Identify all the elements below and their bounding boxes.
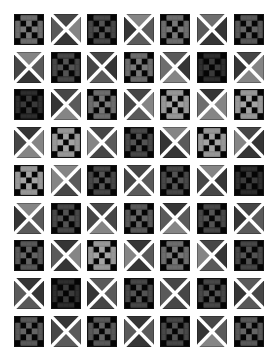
hourglass-x-tile bbox=[87, 278, 117, 309]
checker-block-tile bbox=[14, 240, 44, 271]
checker-block-tile bbox=[160, 89, 190, 120]
checker-block-tile bbox=[234, 240, 264, 271]
hourglass-x-tile bbox=[197, 240, 227, 271]
hourglass-x-tile bbox=[234, 278, 264, 309]
hourglass-x-tile bbox=[14, 52, 44, 83]
checker-block-tile bbox=[124, 52, 154, 83]
checker-block-tile bbox=[14, 14, 44, 45]
hourglass-x-tile bbox=[124, 89, 154, 120]
hourglass-x-tile bbox=[197, 89, 227, 120]
hourglass-x-tile bbox=[51, 316, 81, 347]
checker-block-tile bbox=[87, 89, 117, 120]
hourglass-x-tile bbox=[160, 203, 190, 234]
checker-block-tile bbox=[234, 165, 264, 196]
hourglass-x-tile bbox=[234, 127, 264, 158]
checker-block-tile bbox=[14, 89, 44, 120]
hourglass-x-tile bbox=[124, 165, 154, 196]
hourglass-x-tile bbox=[51, 165, 81, 196]
hourglass-x-tile bbox=[160, 127, 190, 158]
checker-block-tile bbox=[14, 316, 44, 347]
checker-block-tile bbox=[234, 316, 264, 347]
hourglass-x-tile bbox=[51, 89, 81, 120]
hourglass-x-tile bbox=[51, 240, 81, 271]
checker-block-tile bbox=[51, 52, 81, 83]
checker-block-tile bbox=[197, 52, 227, 83]
hourglass-x-tile bbox=[124, 14, 154, 45]
hourglass-x-tile bbox=[197, 316, 227, 347]
checker-block-tile bbox=[51, 278, 81, 309]
checker-block-tile bbox=[197, 127, 227, 158]
hourglass-x-tile bbox=[234, 52, 264, 83]
checker-block-tile bbox=[14, 165, 44, 196]
hourglass-x-tile bbox=[234, 203, 264, 234]
checker-block-tile bbox=[197, 203, 227, 234]
checker-block-tile bbox=[124, 203, 154, 234]
hourglass-x-tile bbox=[14, 278, 44, 309]
checker-block-tile bbox=[51, 127, 81, 158]
quilt-pattern-grid bbox=[14, 14, 264, 349]
hourglass-x-tile bbox=[51, 14, 81, 45]
checker-block-tile bbox=[124, 127, 154, 158]
checker-block-tile bbox=[160, 165, 190, 196]
hourglass-x-tile bbox=[124, 240, 154, 271]
checker-block-tile bbox=[87, 165, 117, 196]
checker-block-tile bbox=[124, 278, 154, 309]
hourglass-x-tile bbox=[124, 316, 154, 347]
checker-block-tile bbox=[234, 14, 264, 45]
checker-block-tile bbox=[160, 240, 190, 271]
hourglass-x-tile bbox=[160, 52, 190, 83]
checker-block-tile bbox=[197, 278, 227, 309]
checker-block-tile bbox=[87, 14, 117, 45]
hourglass-x-tile bbox=[197, 14, 227, 45]
hourglass-x-tile bbox=[14, 203, 44, 234]
hourglass-x-tile bbox=[160, 278, 190, 309]
hourglass-x-tile bbox=[87, 127, 117, 158]
checker-block-tile bbox=[160, 316, 190, 347]
hourglass-x-tile bbox=[87, 203, 117, 234]
checker-block-tile bbox=[87, 316, 117, 347]
hourglass-x-tile bbox=[87, 52, 117, 83]
checker-block-tile bbox=[51, 203, 81, 234]
checker-block-tile bbox=[160, 14, 190, 45]
checker-block-tile bbox=[234, 89, 264, 120]
hourglass-x-tile bbox=[197, 165, 227, 196]
checker-block-tile bbox=[87, 240, 117, 271]
hourglass-x-tile bbox=[14, 127, 44, 158]
